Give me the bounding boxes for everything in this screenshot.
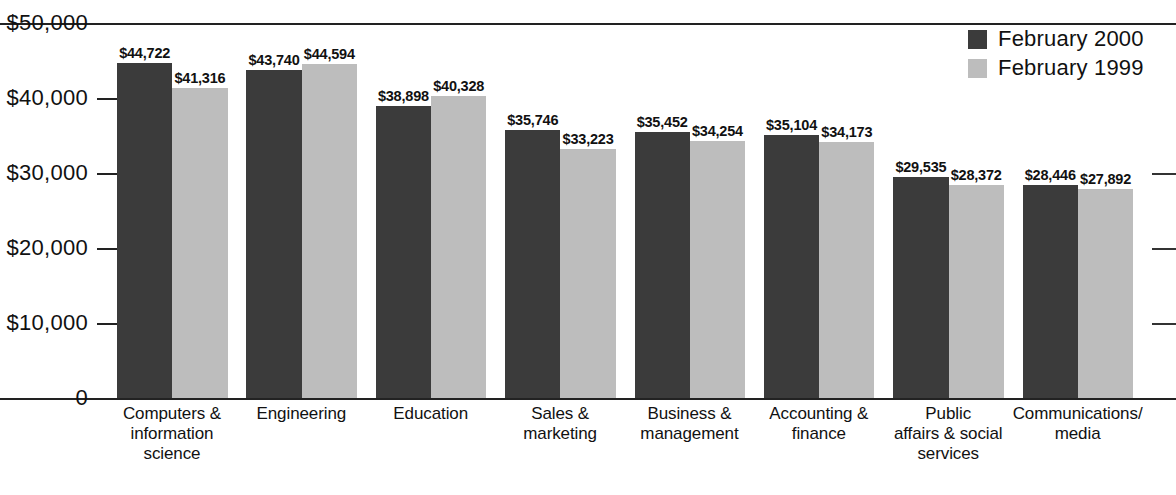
y-axis-tick-label: $20,000 (6, 235, 88, 261)
bar-feb-2000: $35,452 (635, 132, 690, 398)
bar-group: $43,740$44,594 (246, 23, 357, 398)
bar-value-label: $38,898 (378, 88, 429, 104)
right-tick-stub (1152, 323, 1176, 325)
bar-feb-1999: $34,254 (690, 141, 745, 398)
x-axis-label: Education (364, 404, 497, 424)
bar-group: $35,746$33,223 (505, 23, 616, 398)
bar-value-label: $41,316 (174, 70, 225, 86)
bar-feb-1999: $41,316 (172, 88, 227, 398)
bar-feb-2000: $29,535 (893, 177, 948, 399)
bar-feb-2000: $38,898 (376, 106, 431, 398)
x-axis-label: Communications/ media (1011, 404, 1144, 444)
chart-legend: February 2000 February 1999 (968, 28, 1144, 86)
y-axis-tick-mark (97, 398, 117, 400)
bar-feb-1999: $40,328 (431, 96, 486, 398)
legend-item: February 2000 (968, 28, 1144, 50)
x-axis-label: Sales & marketing (493, 404, 626, 444)
legend-swatch-icon (968, 59, 987, 78)
bar-value-label: $34,254 (692, 123, 743, 139)
bar-group: $35,452$34,254 (635, 23, 746, 398)
bar-feb-2000: $44,722 (117, 63, 172, 398)
bar-group: $35,104$34,173 (764, 23, 875, 398)
bar-value-label: $34,173 (821, 124, 872, 140)
bar-value-label: $28,446 (1025, 167, 1076, 183)
bar-feb-2000: $28,446 (1023, 185, 1078, 398)
bar-feb-1999: $34,173 (819, 142, 874, 398)
y-axis-tick-label: $30,000 (6, 160, 88, 186)
axis-baseline (0, 398, 1176, 400)
bar-feb-2000: $35,104 (764, 135, 819, 398)
x-axis-label: Computers & information science (105, 404, 238, 464)
bar-value-label: $40,328 (433, 78, 484, 94)
bar-feb-1999: $33,223 (560, 149, 615, 398)
y-axis-tick-label: $50,000 (6, 10, 88, 36)
bar-value-label: $35,452 (637, 114, 688, 130)
legend-swatch-icon (968, 30, 987, 49)
legend-label: February 1999 (998, 55, 1144, 81)
y-axis-tick-label: 0 (75, 385, 88, 411)
bar-feb-2000: $43,740 (246, 70, 301, 398)
x-axis-label: Business & management (623, 404, 756, 444)
x-axis-label: Accounting & finance (752, 404, 885, 444)
legend-item: February 1999 (968, 57, 1144, 79)
bar-feb-1999: $27,892 (1078, 189, 1133, 398)
bar-value-label: $27,892 (1080, 171, 1131, 187)
y-axis-tick-mark (97, 173, 117, 175)
bar-group: $38,898$40,328 (376, 23, 487, 398)
bar-value-label: $44,594 (304, 46, 355, 62)
y-axis-tick-mark (97, 98, 117, 100)
x-axis-label: Engineering (235, 404, 368, 424)
x-axis-label: Public affairs & social services (882, 404, 1015, 464)
y-axis-tick-mark (97, 248, 117, 250)
bar-group: $44,722$41,316 (117, 23, 228, 398)
bar-value-label: $28,372 (951, 167, 1002, 183)
y-axis-tick-label: $40,000 (6, 85, 88, 111)
bar-value-label: $44,722 (119, 45, 170, 61)
bar-value-label: $35,746 (507, 112, 558, 128)
y-axis-tick-mark (97, 323, 117, 325)
bar-value-label: $35,104 (766, 117, 817, 133)
right-tick-stub (1152, 173, 1176, 175)
bar-value-label: $43,740 (249, 52, 300, 68)
bar-value-label: $29,535 (895, 159, 946, 175)
legend-label: February 2000 (998, 26, 1144, 52)
bar-chart: $50,000$40,000$30,000$20,000$10,0000 $44… (0, 0, 1176, 495)
bar-feb-1999: $28,372 (949, 185, 1004, 398)
y-axis-tick-label: $10,000 (6, 310, 88, 336)
right-tick-stub (1152, 248, 1176, 250)
bar-value-label: $33,223 (563, 131, 614, 147)
bar-feb-2000: $35,746 (505, 130, 560, 398)
bar-feb-1999: $44,594 (302, 64, 357, 398)
